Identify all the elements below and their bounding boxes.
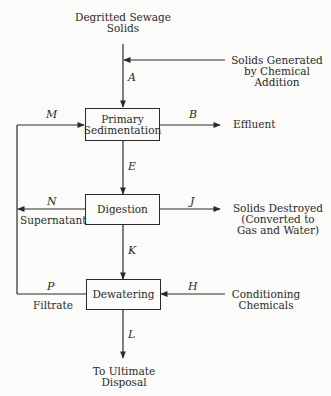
- flow-label-K: K: [128, 245, 136, 256]
- solids-destroyed-line3: Gas and Water): [228, 225, 328, 236]
- process-digestion: Digestion: [85, 194, 160, 225]
- flow-label-B: B: [189, 109, 197, 120]
- flow-label-J: J: [190, 196, 194, 207]
- flow-label-M: M: [46, 109, 57, 120]
- process-primary-sedimentation: Primary Sedimentation: [85, 108, 160, 141]
- flow-label-L: L: [128, 329, 135, 340]
- disposal-line2: Disposal: [88, 377, 160, 388]
- input-sewage-solids-line2: Solids: [72, 23, 174, 34]
- conditioning-line2: Chemicals: [228, 300, 304, 311]
- primary-sedimentation-line2: Sedimentation: [84, 125, 162, 136]
- output-solids-destroyed: Solids Destroyed (Converted to Gas and W…: [228, 203, 328, 236]
- output-disposal: To Ultimate Disposal: [88, 366, 160, 388]
- input-chemical-solids-line3: Addition: [228, 77, 326, 88]
- side-stream-supernatant: Supernatant: [20, 215, 86, 226]
- input-chemical-solids: Solids Generated by Chemical Addition: [228, 55, 326, 88]
- process-flow-diagram: Degritted Sewage Solids Solids Generated…: [0, 0, 331, 396]
- flow-label-H: H: [188, 281, 198, 292]
- output-effluent: Effluent: [233, 119, 275, 130]
- input-sewage-solids: Degritted Sewage Solids: [72, 12, 174, 34]
- input-conditioning-chemicals: Conditioning Chemicals: [228, 289, 304, 311]
- process-dewatering: Dewatering: [86, 279, 161, 310]
- flow-label-A: A: [128, 72, 136, 83]
- side-stream-filtrate: Filtrate: [33, 300, 73, 311]
- flow-label-P: P: [47, 281, 54, 292]
- flow-label-E: E: [128, 161, 136, 172]
- flow-label-N: N: [47, 196, 57, 207]
- primary-sedimentation-line1: Primary: [101, 114, 144, 125]
